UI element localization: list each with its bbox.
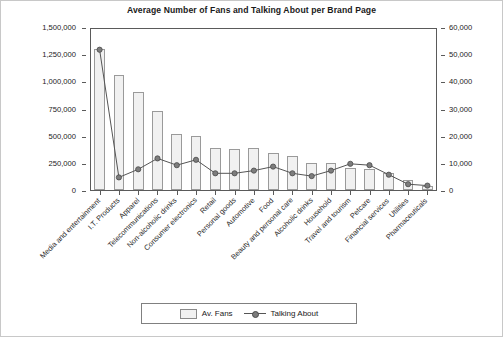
right-axis-tick-label: 40,000 (449, 77, 472, 86)
left-axis-tick (82, 110, 86, 111)
left-axis-tick-label: 1,000,000 (42, 77, 76, 86)
line-marker (136, 167, 141, 172)
line-marker (116, 175, 121, 180)
left-axis-tick-label: 750,000 (49, 105, 76, 114)
right-axis-tick (441, 82, 445, 83)
right-value-axis: 010,00020,00030,00040,00050,00060,000 (441, 28, 501, 191)
line-marker (406, 182, 411, 187)
line-marker (271, 164, 276, 169)
line-marker (425, 183, 430, 188)
right-axis-tick (441, 164, 445, 165)
line-marker (232, 171, 237, 176)
legend-item-talking-about: Talking About (244, 309, 319, 318)
right-axis-tick-label: 30,000 (449, 105, 472, 114)
category-axis-labels: Media and entertainmentI.T. ProductsAppa… (1, 193, 502, 293)
right-axis-tick-label: 60,000 (449, 23, 472, 32)
line-marker (290, 171, 295, 176)
legend-label-av-fans: Av. Fans (202, 309, 233, 318)
plot-area (90, 28, 437, 191)
line-marker (367, 163, 372, 168)
left-axis-tick (82, 191, 86, 192)
left-axis-tick-label: 1,500,000 (42, 23, 76, 32)
left-axis-tick-label: 250,000 (49, 159, 76, 168)
right-axis-tick-label: 20,000 (449, 132, 472, 141)
left-axis-tick (82, 137, 86, 138)
left-axis-tick-label: 1,250,000 (42, 50, 76, 59)
left-value-axis: 0250,000500,000750,0001,000,0001,250,000… (1, 28, 86, 191)
right-axis-tick (441, 110, 445, 111)
line-series-talking-about (90, 28, 437, 191)
bar-swatch-icon (180, 309, 197, 319)
line-marker (348, 161, 353, 166)
line-marker (174, 163, 179, 168)
left-axis-tick-label: 500,000 (49, 132, 76, 141)
line-marker (386, 172, 391, 177)
line-marker (309, 174, 314, 179)
legend-label-talking-about: Talking About (271, 309, 319, 318)
line-marker-icon (244, 310, 266, 318)
right-axis-tick (441, 137, 445, 138)
line-marker (193, 157, 198, 162)
chart-legend: Av. Fans Talking About (141, 303, 357, 324)
right-axis-tick-label: 10,000 (449, 159, 472, 168)
chart-title: Average Number of Fans and Talking About… (1, 5, 502, 15)
line-marker (328, 168, 333, 173)
left-axis-tick (82, 164, 86, 165)
chart-container: Average Number of Fans and Talking About… (0, 0, 503, 337)
line-marker (213, 171, 218, 176)
line-marker (251, 168, 256, 173)
line-marker (97, 47, 102, 52)
right-axis-tick (441, 191, 445, 192)
right-axis-tick-label: 50,000 (449, 50, 472, 59)
legend-item-av-fans: Av. Fans (180, 309, 233, 319)
left-axis-tick (82, 55, 86, 56)
left-axis-tick (82, 82, 86, 83)
right-axis-tick (441, 55, 445, 56)
line-marker (155, 156, 160, 161)
left-axis-tick (82, 28, 86, 29)
right-axis-tick (441, 28, 445, 29)
